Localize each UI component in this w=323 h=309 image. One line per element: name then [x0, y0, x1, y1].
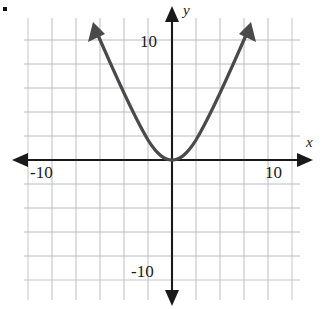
coordinate-plane-figure: y x 10 -10 -10 10: [0, 0, 323, 309]
x-tick-label-neg10: -10: [30, 163, 53, 183]
curve-arrow-left: [88, 22, 105, 42]
y-axis: [165, 6, 179, 306]
x-axis-label: x: [306, 134, 313, 151]
y-axis-label: y: [183, 2, 190, 19]
curve-arrow-right: [239, 22, 256, 42]
y-tick-label-10: 10: [140, 32, 157, 52]
y-tick-label-neg10: -10: [131, 262, 154, 282]
graph-plot: [0, 0, 323, 309]
x-tick-label-10: 10: [265, 163, 282, 183]
